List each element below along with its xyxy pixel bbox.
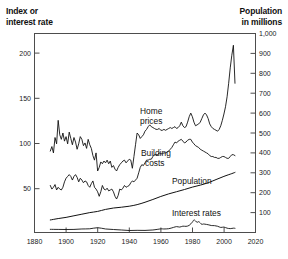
right-tick-400: 400 <box>259 149 271 156</box>
x-tick-1980: 1980 <box>185 238 201 245</box>
plot-area: 200 150 100 50 1,000 900 800 700 600 500 <box>0 0 288 259</box>
x-tick-1920: 1920 <box>90 238 106 245</box>
x-tick-labels: 1880 1900 1920 1940 1960 1980 2000 2020 <box>27 238 264 245</box>
left-tick-150: 150 <box>19 95 31 102</box>
right-tick-600: 600 <box>259 110 271 117</box>
right-tick-labels: 1,000 900 800 700 600 500 400 300 200 10… <box>259 30 277 216</box>
label-population: Population <box>172 176 212 186</box>
shiller-home-price-chart: Index or interest rate Population in mil… <box>0 0 288 259</box>
right-tick-700: 700 <box>259 90 271 97</box>
x-tick-2020: 2020 <box>248 238 264 245</box>
right-tick-900: 900 <box>259 50 271 57</box>
label-interest-rates: Interest rates <box>172 208 221 218</box>
x-tick-1900: 1900 <box>58 238 74 245</box>
label-building-costs-line2: costs <box>145 158 165 168</box>
right-tick-1000: 1,000 <box>259 30 277 37</box>
right-tick-100: 100 <box>259 209 271 216</box>
x-tick-1880: 1880 <box>27 238 43 245</box>
label-home-prices-line2: prices <box>140 116 162 126</box>
right-axis-ticks <box>251 34 256 213</box>
label-home-prices: Home <box>140 106 163 116</box>
x-tick-1940: 1940 <box>122 238 138 245</box>
series-line-interest-rates <box>50 220 235 231</box>
left-tick-200: 200 <box>19 50 31 57</box>
x-tick-2000: 2000 <box>216 238 232 245</box>
left-axis-ticks <box>35 53 40 189</box>
right-tick-200: 200 <box>259 189 271 196</box>
left-tick-100: 100 <box>19 140 31 147</box>
x-tick-1960: 1960 <box>153 238 169 245</box>
left-tick-labels: 200 150 100 50 <box>19 50 31 193</box>
right-tick-300: 300 <box>259 169 271 176</box>
label-building-costs: Building <box>141 148 171 158</box>
series-annotations: Home prices Building costs Population In… <box>140 106 221 218</box>
left-tick-50: 50 <box>23 185 31 192</box>
right-tick-500: 500 <box>259 130 271 137</box>
right-tick-800: 800 <box>259 70 271 77</box>
